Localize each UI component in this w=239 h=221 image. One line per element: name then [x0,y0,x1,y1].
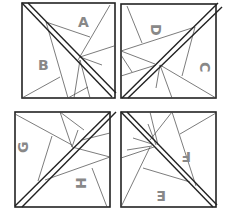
block-bottom-right: F E [121,112,217,207]
label-e: E [156,188,166,204]
label-a: A [78,14,89,30]
label-g: G [15,142,31,154]
block-top-right: D C [121,3,222,98]
block-top-left: A B [22,3,116,98]
label-b: B [38,57,49,73]
block-bottom-left: G H [15,112,116,207]
label-f: F [181,149,191,165]
diagram-canvas: A B D C G H [0,0,239,221]
label-d: D [148,24,164,36]
label-h: H [73,177,89,189]
label-c: C [197,62,213,72]
